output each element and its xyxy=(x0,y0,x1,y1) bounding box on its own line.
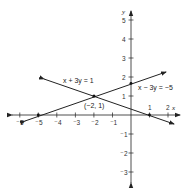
x-tick-label: 1 xyxy=(148,104,152,111)
coordinate-plane: ⁻6 ⁻5 ⁻4 ⁻3 ⁻2 ⁻1 1 2 x 5 4 3 2 1 ⁻1 ⁻2 … xyxy=(0,0,185,191)
y-tick-label: ⁻2 xyxy=(120,150,128,157)
x-tick-label: ⁻6 xyxy=(16,119,24,126)
point-x-intercept-line2 xyxy=(37,114,40,117)
x-tick-label: ⁻5 xyxy=(35,119,43,126)
x-axis-label: x xyxy=(171,104,176,112)
equation-label-2: x − 3y = −5 xyxy=(138,84,173,92)
x-tick-label: ⁻4 xyxy=(54,119,62,126)
y-axis-label: y xyxy=(121,8,126,16)
x-tick-label: ⁻3 xyxy=(73,119,81,126)
y-tick-label: 1 xyxy=(122,93,126,100)
y-tick-label: 3 xyxy=(122,55,126,62)
y-tick-label: 2 xyxy=(122,74,126,81)
y-tick-label: 4 xyxy=(122,36,126,43)
x-tick-label: ⁻1 xyxy=(110,119,118,126)
x-tick-label: 2 xyxy=(166,104,170,111)
point-intersection xyxy=(92,94,95,97)
equation-label-1: x + 3y = 1 xyxy=(63,77,94,85)
y-tick-label: ⁻3 xyxy=(120,169,128,176)
intersection-label: (−2, 1) xyxy=(84,102,104,110)
point-y-intercept-line2 xyxy=(130,82,133,85)
point-x-intercept-line1 xyxy=(148,114,151,117)
y-tick-label: ⁻1 xyxy=(120,131,128,138)
y-tick-label: 5 xyxy=(122,17,126,24)
x-tick-label: ⁻2 xyxy=(91,119,99,126)
